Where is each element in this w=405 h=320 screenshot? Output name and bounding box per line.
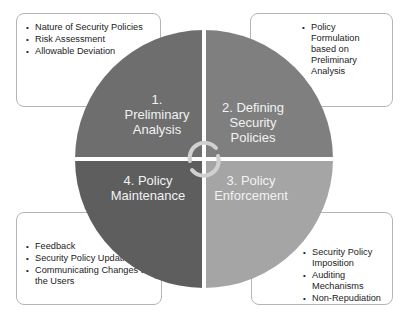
- bullet-icon: •: [26, 253, 29, 264]
- bullet-icon: •: [26, 22, 29, 33]
- bullet-icon: •: [26, 241, 29, 252]
- bullet-icon: •: [303, 293, 306, 304]
- quadrant-label: 1. Preliminary Analysis: [117, 92, 197, 137]
- quadrant-label: 2. Defining Security Policies: [210, 100, 296, 145]
- quadrant-label: 4. Policy Maintenance: [103, 173, 193, 203]
- quadrant-label: 3. Policy Enforcement: [206, 173, 296, 203]
- cycle-circle: 1. Preliminary Analysis 2. Defining Secu…: [75, 30, 333, 288]
- quadrant-policy-enforcement: 3. Policy Enforcement: [206, 161, 333, 288]
- quadrant-preliminary-analysis: 1. Preliminary Analysis: [75, 30, 202, 157]
- note-item: •Non-Repudiation: [302, 293, 386, 304]
- bullet-icon: •: [26, 34, 29, 45]
- quadrant-policy-maintenance: 4. Policy Maintenance: [75, 161, 202, 288]
- security-policy-lifecycle-diagram: •Nature of Security Policies •Risk Asses…: [0, 0, 405, 320]
- quadrant-defining-security-policies: 2. Defining Security Policies: [206, 30, 333, 157]
- bullet-icon: •: [26, 265, 29, 276]
- bullet-icon: •: [26, 46, 29, 57]
